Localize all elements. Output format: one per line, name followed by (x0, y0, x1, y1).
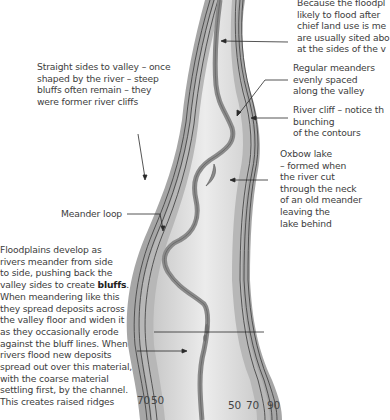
contour-label-70-right: 70 (246, 399, 259, 411)
paragraph-line: the valley floor and widen it (0, 314, 132, 326)
contour-label-90-right: 90 (267, 399, 280, 411)
paragraph-line: they spread deposits across (0, 303, 132, 315)
annotation-line: lake behind (280, 218, 362, 230)
annotation-line: bunching (293, 116, 384, 128)
annotation-line: along the valley (293, 85, 375, 97)
annotation-line: Because the floodpl (297, 0, 390, 9)
annotation-line: River cliff – notice th (293, 104, 384, 116)
paragraph-line: against the bluff lines. When (0, 338, 132, 350)
annotation-line: evenly spaced (293, 74, 375, 86)
contour-label-50-right: 50 (228, 399, 241, 411)
annotation-line: bluffs often remain – they (37, 84, 170, 96)
annotation-line: at the sides of the v (297, 43, 390, 55)
annotation-river-cliff: River cliff – notice th bunching of the … (293, 104, 384, 139)
paragraph-text: valley sides to create (0, 279, 98, 290)
paragraph-line: Floodplains develop as (0, 244, 132, 256)
paragraph-line: When meandering like this (0, 291, 132, 303)
annotation-regular-meanders: Regular meanders evenly spaced along the… (293, 62, 375, 97)
paragraph-line: to side, pushing back the (0, 267, 132, 279)
annotation-line: shaped by the river – steep (37, 73, 170, 85)
contour-label-50-left: 50 (151, 394, 164, 406)
annotation-line: chief land use is me (297, 20, 390, 32)
annotation-oxbow-lake: Oxbow lake – formed when the river cut t… (280, 148, 362, 229)
annotation-line: likely to flood after (297, 9, 390, 21)
annotation-floodplains-paragraph: Floodplains develop as rivers meander fr… (0, 244, 132, 408)
paragraph-line: as they occasionally erode (0, 326, 132, 338)
paragraph-line: This creates raised ridges (0, 396, 132, 408)
paragraph-text: . (126, 279, 129, 290)
pond-icon (203, 335, 206, 342)
annotation-line: of an old meander (280, 194, 362, 206)
paragraph-line: settling first, by the channel. (0, 384, 132, 396)
annotation-line: of the contours (293, 127, 384, 139)
annotation-meander-loop: Meander loop (61, 208, 122, 220)
annotation-line: leaving the (280, 206, 362, 218)
annotation-line: Straight sides to valley – once (37, 61, 170, 73)
annotation-straight-sides: Straight sides to valley – once shaped b… (37, 61, 170, 107)
paragraph-line: valley sides to create bluffs. (0, 279, 132, 291)
paragraph-line: rivers meander from side (0, 256, 132, 268)
paragraph-line: spread out over this material, (0, 361, 132, 373)
annotation-line: were former river cliffs (37, 96, 170, 108)
annotation-line: through the neck (280, 183, 362, 195)
annotation-line: are usually sited abo (297, 32, 390, 44)
annotation-line: the river cut (280, 171, 362, 183)
annotation-line: – formed when (280, 160, 362, 172)
bold-term-bluffs: bluffs (98, 279, 127, 290)
pond-icon (205, 324, 209, 334)
paragraph-line: with the coarse material (0, 373, 132, 385)
annotation-line: Oxbow lake (280, 148, 362, 160)
annotation-floodplain-land-use: Because the floodpl likely to flood afte… (297, 0, 390, 55)
contour-label-70-left: 70 (137, 394, 150, 406)
paragraph-line: rivers flood new deposits (0, 349, 132, 361)
annotation-line: Regular meanders (293, 62, 375, 74)
